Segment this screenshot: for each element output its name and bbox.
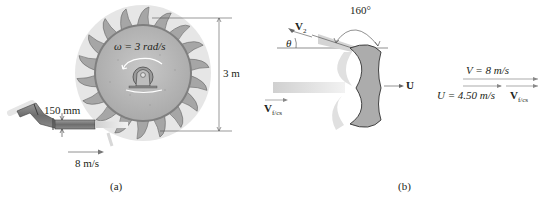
jet-speed-arrow-icon [68,150,104,155]
jet-speed-label: 8 m/s [75,157,99,169]
inlet-jet [273,82,345,93]
theta-label: θ [286,37,291,49]
omega-label: ω = 3 rad/s [114,40,166,52]
v2-arrow-icon [288,28,295,33]
pelton-wheel [75,5,211,141]
angle-label: 160° [350,4,371,16]
water-jet [95,121,128,128]
vfcs-vector-label: Vf/cs [510,89,528,104]
nozzle-diameter-label: 150 mm [44,104,80,116]
diameter-label: 3 m [223,67,240,79]
u-speed-label: U = 4.50 m/s [437,89,495,101]
outlet-jet-lower [332,93,345,130]
u-arrow-icon [384,84,404,88]
bucket [350,45,381,127]
caption-a: (a) [110,180,122,192]
v-speed-label: V = 8 m/s [466,64,509,76]
u-label: U [406,79,414,91]
vfcs-label: Vf/cs [264,102,282,117]
caption-b: (b) [398,180,411,192]
diagram-canvas [0,0,538,202]
velocity-diagram [463,77,538,88]
theta-arc [295,38,296,48]
v2-label: V2 [295,20,306,35]
